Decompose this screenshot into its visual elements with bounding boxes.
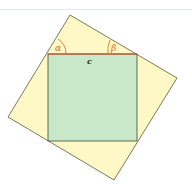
diagram-canvas: α β c [0, 0, 192, 184]
beta-label: β [110, 43, 116, 53]
alpha-label: α [55, 43, 61, 53]
side-c-label: c [87, 56, 92, 66]
inner-square [48, 54, 137, 141]
